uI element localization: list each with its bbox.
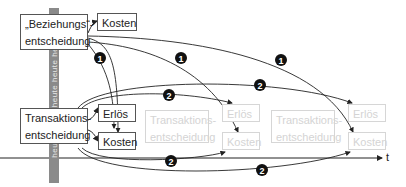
future2-line2: entscheidung — [276, 129, 330, 146]
future1-erloes-box: Erlös — [222, 104, 260, 122]
transaktion-erloes-box: Erlös — [98, 104, 136, 122]
beziehung-line1: „Beziehungs“- — [25, 16, 83, 33]
transaktion-line1: Transaktions- — [25, 110, 83, 127]
svg-text:2: 2 — [166, 91, 171, 101]
future1-line2: entscheidung — [150, 129, 204, 146]
future-transaktion-box-2: Transaktions- entscheidung — [271, 110, 335, 143]
transaktionsentscheidung-box: Transaktions- entscheidung — [20, 108, 88, 144]
badge-one-a: 1 — [94, 52, 106, 64]
badge-one-c: 1 — [275, 54, 287, 66]
badge-one-b: 1 — [175, 52, 187, 64]
beziehung-line2: entscheidung — [25, 33, 83, 50]
svg-text:1: 1 — [97, 54, 102, 64]
beziehung-kosten-box: Kosten — [97, 13, 137, 31]
badge-two-c: 2 — [165, 155, 177, 167]
future2-kosten-box: Kosten — [348, 132, 386, 150]
future2-line1: Transaktions- — [276, 112, 330, 129]
badge-two-d: 2 — [256, 164, 268, 176]
future1-kosten-box: Kosten — [222, 132, 260, 150]
svg-text:2: 2 — [168, 157, 173, 167]
svg-text:2: 2 — [257, 81, 262, 91]
badge-two-a: 2 — [163, 89, 175, 101]
time-axis-label: t — [386, 151, 389, 163]
transaktion-kosten-box: Kosten — [98, 132, 136, 150]
future1-line1: Transaktions- — [150, 112, 204, 129]
svg-text:2: 2 — [259, 166, 264, 176]
svg-text:1: 1 — [178, 54, 183, 64]
transaktion-line2: entscheidung — [25, 127, 83, 144]
future2-erloes-box: Erlös — [348, 104, 386, 122]
future-transaktion-box-1: Transaktions- entscheidung — [145, 110, 209, 143]
beziehungsentscheidung-box: „Beziehungs“- entscheidung — [20, 14, 88, 50]
badge-two-b: 2 — [254, 79, 266, 91]
svg-text:1: 1 — [278, 56, 283, 66]
